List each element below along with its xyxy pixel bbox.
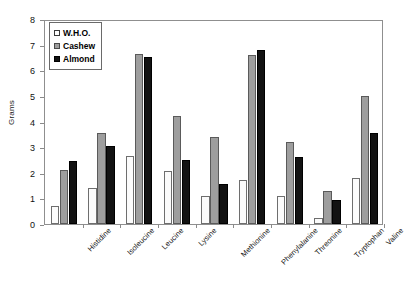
bar bbox=[248, 55, 257, 224]
x-axis-tick-label: Leucine bbox=[160, 226, 185, 251]
bar bbox=[295, 157, 304, 224]
y-axis-tick-label: 1 bbox=[30, 194, 35, 204]
bar bbox=[106, 146, 115, 224]
bar bbox=[332, 200, 341, 224]
bar-group bbox=[126, 21, 153, 224]
x-axis-tick-label: Lysine bbox=[196, 226, 218, 248]
chart-legend: W.H.O.CashewAlmond bbox=[49, 22, 102, 70]
bar bbox=[135, 54, 144, 224]
legend-swatch-icon bbox=[54, 43, 60, 49]
bar-group bbox=[352, 21, 379, 224]
bar-group bbox=[314, 21, 341, 224]
legend-swatch-icon bbox=[54, 30, 60, 36]
bar bbox=[323, 191, 332, 224]
bar bbox=[126, 156, 135, 224]
y-axis-tick-label: 0 bbox=[30, 220, 35, 230]
bar-group bbox=[201, 21, 228, 224]
legend-item-label: Almond bbox=[63, 55, 95, 64]
legend-item-label: W.H.O. bbox=[63, 29, 90, 38]
bar-group bbox=[239, 21, 266, 224]
x-axis-tick-label: Valine bbox=[384, 226, 405, 247]
legend-item[interactable]: Almond bbox=[54, 53, 95, 65]
y-axis-tick-label: 5 bbox=[30, 92, 35, 102]
y-axis-tick-label: 7 bbox=[30, 41, 35, 51]
legend-item[interactable]: W.H.O. bbox=[54, 27, 95, 39]
bar bbox=[210, 137, 219, 224]
y-axis-tick-label: 8 bbox=[30, 15, 35, 25]
bar bbox=[257, 50, 266, 224]
bar bbox=[173, 116, 182, 224]
legend-swatch-icon bbox=[54, 56, 60, 62]
bar bbox=[201, 196, 210, 224]
x-axis-tick-mark bbox=[384, 224, 385, 228]
bar bbox=[60, 170, 69, 224]
y-axis-tick-label: 6 bbox=[30, 66, 35, 76]
bar bbox=[239, 180, 248, 224]
x-axis-tick-label: Isoleucine bbox=[125, 226, 156, 257]
x-axis-tick-label: Histidine bbox=[86, 226, 113, 253]
x-axis-labels: HistidineIsoleucineLeucineLysineMethioni… bbox=[44, 226, 383, 285]
legend-item-label: Cashew bbox=[63, 42, 95, 51]
y-axis-tick-label: 2 bbox=[30, 169, 35, 179]
bar bbox=[51, 206, 60, 224]
y-axis-tick-label: 4 bbox=[30, 118, 35, 128]
x-axis-tick-label: Methionine bbox=[239, 226, 272, 259]
bar bbox=[144, 57, 153, 224]
bar bbox=[352, 178, 361, 224]
bar bbox=[219, 184, 228, 224]
bar bbox=[88, 188, 97, 224]
bar bbox=[370, 133, 379, 224]
x-axis-tick-label: Tryptophan bbox=[352, 226, 386, 260]
bar bbox=[97, 133, 106, 224]
bar bbox=[69, 161, 78, 224]
bar bbox=[286, 142, 295, 224]
bar-group bbox=[277, 21, 304, 224]
bar-group bbox=[164, 21, 191, 224]
bar bbox=[277, 196, 286, 224]
bar bbox=[182, 160, 191, 224]
bar bbox=[164, 171, 173, 224]
y-axis-ticks: 012345678 bbox=[0, 0, 44, 285]
y-axis-tick-label: 3 bbox=[30, 143, 35, 153]
x-axis-tick-label: Phenylalanine bbox=[279, 226, 320, 267]
legend-item[interactable]: Cashew bbox=[54, 40, 95, 52]
bar bbox=[361, 96, 370, 224]
bar bbox=[314, 218, 323, 224]
